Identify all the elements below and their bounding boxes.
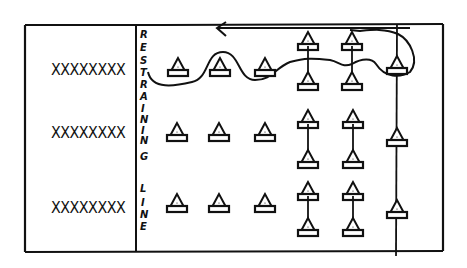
cones-row-3	[167, 182, 407, 236]
player-row-2: XXXXXXXX	[51, 124, 125, 142]
letter: N	[140, 136, 148, 146]
letter: L	[140, 184, 146, 194]
letter: I	[141, 198, 145, 208]
letter: N	[140, 115, 148, 125]
player-row-3: XXXXXXXX	[51, 199, 125, 217]
letter: N	[140, 210, 148, 220]
letter: G	[140, 152, 148, 162]
letter: S	[140, 56, 147, 66]
letter: I	[141, 104, 145, 114]
letter: R	[140, 80, 148, 90]
letter: E	[140, 222, 147, 232]
letter: R	[140, 30, 148, 40]
letter: T	[140, 68, 147, 78]
cones-row-2	[167, 110, 407, 168]
player-row-1: XXXXXXXX	[51, 61, 125, 79]
letter: A	[140, 92, 148, 102]
drill-diagram: XXXXXXXX XXXXXXXX XXXXXXXX R E S T R A I…	[0, 0, 467, 268]
letter: E	[140, 43, 147, 53]
